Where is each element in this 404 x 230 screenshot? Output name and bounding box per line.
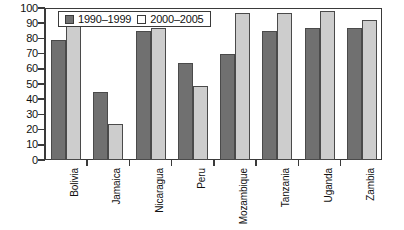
y-axis-tick-label: 20 bbox=[26, 124, 38, 135]
bar bbox=[151, 28, 166, 160]
legend-item: 2000–2005 bbox=[137, 14, 203, 25]
y-axis-tick-label: 0 bbox=[32, 155, 38, 166]
bar bbox=[362, 20, 377, 160]
bar bbox=[277, 13, 292, 160]
bar bbox=[347, 28, 362, 160]
legend-item: 1990–1999 bbox=[65, 14, 131, 25]
x-axis-category-label: Zambia bbox=[366, 168, 376, 201]
x-axis-category-label: Mozambique bbox=[239, 168, 249, 224]
y-axis-tick-label: 30 bbox=[26, 109, 38, 120]
bar bbox=[320, 11, 335, 160]
chart-legend: 1990–1999 2000–2005 bbox=[58, 11, 211, 27]
x-axis-tick bbox=[298, 160, 300, 166]
bars-layer bbox=[44, 8, 382, 160]
x-axis-category-label: Peru bbox=[197, 168, 207, 189]
y-axis-tick-label: 60 bbox=[26, 63, 38, 74]
bar bbox=[262, 31, 277, 160]
x-axis-tick bbox=[213, 160, 215, 166]
y-axis-tick-label: 10 bbox=[26, 139, 38, 150]
x-axis-category-label: Jamaica bbox=[112, 168, 122, 205]
x-axis-tick bbox=[86, 160, 88, 166]
bar bbox=[108, 124, 123, 160]
x-axis-tick bbox=[340, 160, 342, 166]
y-axis-tick-label: 90 bbox=[26, 18, 38, 29]
y-axis-tick-label: 80 bbox=[26, 33, 38, 44]
bar-chart: 0102030405060708090100 BoliviaJamaicaNic… bbox=[0, 0, 404, 230]
bar bbox=[66, 25, 81, 160]
bar bbox=[93, 92, 108, 160]
bar bbox=[193, 86, 208, 160]
light-gray-swatch-icon bbox=[137, 15, 146, 24]
y-axis-tick-label: 50 bbox=[26, 79, 38, 90]
bar bbox=[220, 54, 235, 160]
y-axis-tick-label: 70 bbox=[26, 48, 38, 59]
y-axis-tick-label: 40 bbox=[26, 94, 38, 105]
x-axis-category-label: Nicaragua bbox=[155, 168, 165, 213]
x-axis-category-label: Uganda bbox=[324, 168, 334, 202]
bar bbox=[305, 28, 320, 160]
x-axis-tick bbox=[129, 160, 131, 166]
bar bbox=[178, 63, 193, 160]
x-axis-tick bbox=[255, 160, 257, 166]
dark-gray-swatch-icon bbox=[65, 15, 74, 24]
bar bbox=[136, 31, 151, 160]
bar bbox=[51, 40, 66, 160]
legend-item-label: 1990–1999 bbox=[78, 14, 131, 25]
y-axis-tick-label: 100 bbox=[20, 3, 38, 14]
x-axis-category-label: Bolivia bbox=[70, 168, 80, 197]
x-axis-category-label: Tanzania bbox=[281, 168, 291, 207]
legend-item-label: 2000–2005 bbox=[150, 14, 203, 25]
x-axis-tick bbox=[171, 160, 173, 166]
bar bbox=[235, 13, 250, 160]
